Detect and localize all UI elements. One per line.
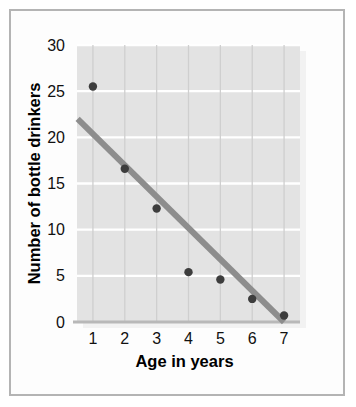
data-point xyxy=(121,165,129,173)
data-point xyxy=(248,295,256,303)
x-tick-label: 4 xyxy=(184,330,193,347)
y-tick-label: 15 xyxy=(47,175,65,192)
x-tick-label: 5 xyxy=(216,330,225,347)
y-tick-label: 5 xyxy=(56,267,65,284)
data-point xyxy=(89,82,97,90)
y-tick-label: 25 xyxy=(47,83,65,100)
x-tick-label: 1 xyxy=(88,330,97,347)
y-axis-title: Number of bottle drinkers xyxy=(25,83,43,285)
y-tick-label: 0 xyxy=(56,314,65,331)
chart-container: 0510152025301234567Age in yearsNumber of… xyxy=(0,0,356,407)
x-tick-label: 2 xyxy=(120,330,129,347)
data-point xyxy=(280,311,288,319)
y-tick-label: 30 xyxy=(47,37,65,54)
y-tick-label: 10 xyxy=(47,221,65,238)
x-axis-title: Age in years xyxy=(135,352,233,370)
scatter-chart: 0510152025301234567Age in yearsNumber of… xyxy=(0,0,356,407)
data-point xyxy=(184,268,192,276)
data-point xyxy=(216,275,224,283)
x-tick-label: 3 xyxy=(152,330,161,347)
y-tick-label: 20 xyxy=(47,129,65,146)
x-tick-label: 6 xyxy=(248,330,257,347)
x-tick-label: 7 xyxy=(280,330,289,347)
data-point xyxy=(152,204,160,212)
